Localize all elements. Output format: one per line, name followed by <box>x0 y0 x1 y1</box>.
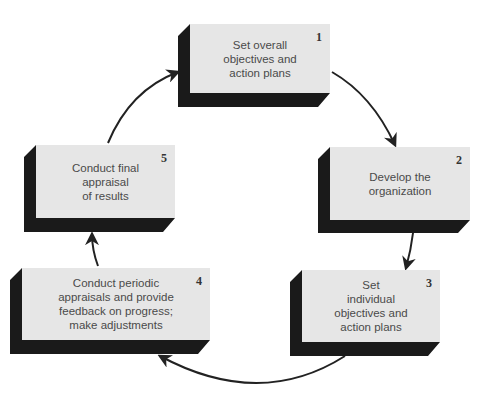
step-box-5: Conduct final appraisal of results 5 <box>24 145 175 232</box>
step-face: Conduct periodic appraisals and provide … <box>22 268 210 340</box>
step-face: Set individual objectives and action pla… <box>302 270 440 342</box>
step-number: 1 <box>316 30 322 45</box>
step-box-2: Develop the organization 2 <box>318 147 470 233</box>
arrow-4-to-5 <box>92 234 98 266</box>
arrow-2-to-3 <box>406 233 413 268</box>
step-face: Develop the organization 2 <box>330 147 470 220</box>
step-label: Set individual objectives and action pla… <box>334 278 408 334</box>
management-cycle-diagram: Set overall objectives and action plans … <box>0 0 490 409</box>
step-label: Set overall objectives and action plans <box>223 38 297 80</box>
step-label: Conduct final appraisal of results <box>72 161 139 203</box>
step-box-4: Conduct periodic appraisals and provide … <box>10 268 210 354</box>
step-box-1: Set overall objectives and action plans … <box>178 24 330 107</box>
step-number: 4 <box>196 274 202 289</box>
step-label: Conduct periodic appraisals and provide … <box>58 276 174 332</box>
arrow-3-to-4 <box>160 356 345 383</box>
step-face: Conduct final appraisal of results 5 <box>36 145 175 218</box>
step-number: 5 <box>161 151 167 166</box>
step-face: Set overall objectives and action plans … <box>190 24 330 93</box>
step-number: 3 <box>426 276 432 291</box>
step-label: Develop the organization <box>369 170 432 198</box>
arrow-1-to-2 <box>332 72 395 145</box>
arrow-5-to-1 <box>108 72 178 143</box>
step-number: 2 <box>456 153 462 168</box>
step-box-3: Set individual objectives and action pla… <box>290 270 440 356</box>
